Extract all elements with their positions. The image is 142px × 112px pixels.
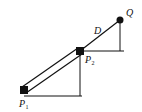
p1-p2-line-upper [22, 48, 78, 87]
label-q: Q [126, 7, 134, 18]
label-d: D [93, 25, 102, 36]
q-marker [117, 17, 124, 24]
geometry-diagram: Q D P 2 P 1 [0, 0, 142, 112]
p2-marker [76, 47, 84, 55]
p1-p2-line-lower [26, 54, 82, 93]
p1-marker [20, 86, 28, 94]
label-p2: P [84, 54, 91, 65]
label-p2-subscript: 2 [92, 60, 95, 66]
label-p1-subscript: 1 [26, 104, 29, 110]
label-p1: P [18, 98, 25, 109]
